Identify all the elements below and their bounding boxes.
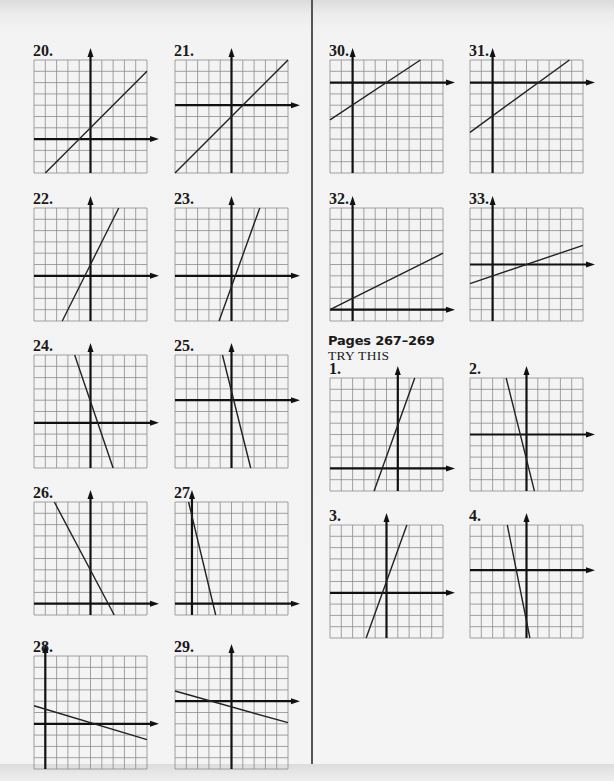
x-axis-arrow-icon (446, 307, 455, 313)
y-axis-arrow-icon (524, 366, 530, 375)
y-axis-arrow-icon (229, 196, 235, 205)
y-axis-arrow-icon (42, 644, 48, 653)
y-axis-arrow-icon (229, 48, 235, 57)
x-axis-arrow-icon (150, 721, 159, 727)
y-axis-arrow-icon (350, 196, 356, 205)
y-axis-arrow-icon (229, 644, 235, 653)
x-axis-arrow-icon (291, 698, 300, 704)
x-axis-arrow-icon (586, 262, 595, 268)
y-axis-arrow-icon (229, 343, 235, 352)
coordinate-graph-23 (163, 196, 300, 333)
y-axis-arrow-icon (524, 513, 530, 522)
x-axis-arrow-icon (446, 465, 455, 471)
coordinate-graph-try-1 (318, 366, 455, 503)
x-axis-arrow-icon (150, 273, 159, 279)
x-axis-arrow-icon (446, 80, 455, 86)
section-heading: Pages 267–269 (328, 333, 435, 348)
coordinate-graph-try-3 (318, 513, 455, 650)
x-axis-arrow-icon (586, 432, 595, 438)
coordinate-graph-try-2 (458, 366, 595, 503)
y-axis-arrow-icon (88, 490, 94, 499)
y-axis-arrow-icon (395, 366, 401, 375)
coordinate-graph-24 (22, 343, 159, 480)
x-axis-arrow-icon (291, 397, 300, 403)
graphed-line (45, 71, 147, 173)
coordinate-graph-29 (163, 644, 300, 781)
x-axis-arrow-icon (150, 136, 159, 142)
y-axis-arrow-icon (88, 196, 94, 205)
coordinate-graph-33 (458, 196, 595, 333)
x-axis-arrow-icon (446, 590, 455, 596)
coordinate-graph-30 (318, 48, 455, 185)
grid-lines (34, 656, 147, 769)
coordinate-graph-20 (22, 48, 159, 185)
x-axis-arrow-icon (291, 102, 300, 108)
grid-lines (330, 208, 443, 321)
x-axis-arrow-icon (586, 567, 595, 573)
coordinate-graph-31 (458, 48, 595, 185)
coordinate-graph-21 (163, 48, 300, 185)
y-axis-arrow-icon (490, 196, 496, 205)
coordinate-graph-try-4 (458, 513, 595, 650)
grid-lines (330, 60, 443, 173)
y-axis-arrow-icon (88, 48, 94, 57)
x-axis-arrow-icon (291, 273, 300, 279)
x-axis-arrow-icon (291, 601, 300, 607)
y-axis-arrow-icon (384, 513, 390, 522)
coordinate-graph-27 (163, 490, 300, 627)
y-axis-arrow-icon (88, 343, 94, 352)
graphed-line (470, 60, 569, 132)
y-axis-arrow-icon (350, 48, 356, 57)
x-axis-arrow-icon (150, 420, 159, 426)
coordinate-graph-22 (22, 196, 159, 333)
grid-lines (330, 378, 443, 491)
x-axis-arrow-icon (586, 80, 595, 86)
column-divider (311, 0, 313, 764)
coordinate-graph-32 (318, 196, 455, 333)
grid-lines (470, 60, 583, 173)
coordinate-graph-25 (163, 343, 300, 480)
coordinate-graph-26 (22, 490, 159, 627)
x-axis-arrow-icon (150, 601, 159, 607)
y-axis-arrow-icon (189, 490, 195, 499)
coordinate-graph-28 (22, 644, 159, 781)
y-axis-arrow-icon (490, 48, 496, 57)
